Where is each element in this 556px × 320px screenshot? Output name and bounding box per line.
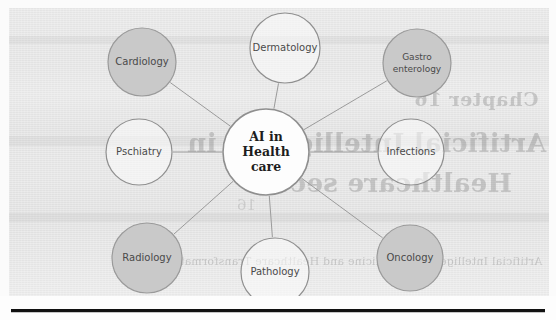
node-cardiology[interactable]: Cardiology bbox=[108, 28, 176, 96]
node-label-radiology: Radiology bbox=[122, 252, 171, 263]
node-gastroenterology[interactable]: Gastroenterology bbox=[383, 29, 451, 97]
edge-ai-in-healthcare-to-dermatology bbox=[274, 83, 279, 108]
node-dermatology[interactable]: Dermatology bbox=[250, 13, 320, 83]
node-label-ai-in-healthcare: Health bbox=[242, 144, 289, 159]
node-ai-in-healthcare[interactable]: AI inHealthcare bbox=[223, 109, 309, 195]
node-label-infections: Infections bbox=[387, 146, 436, 157]
node-pschiatry[interactable]: Pschiatry bbox=[106, 119, 172, 185]
hub-and-spoke-diagram: CardiologyDermatologyGastroenterologyInf… bbox=[0, 0, 556, 320]
node-label-pschiatry: Pschiatry bbox=[116, 146, 162, 157]
node-label-gastroenterology: Gastro bbox=[402, 52, 432, 62]
bottom-rule-shadow bbox=[11, 312, 545, 313]
edge-ai-in-healthcare-to-cardiology bbox=[170, 83, 230, 127]
node-label-pathology: Pathology bbox=[250, 266, 299, 277]
node-label-oncology: Oncology bbox=[387, 252, 434, 263]
node-oncology[interactable]: Oncology bbox=[377, 225, 443, 291]
page-bottom-margin bbox=[0, 296, 556, 320]
scanned-page: Chapter 16 Artificial Intelligence in He… bbox=[0, 0, 556, 320]
edge-ai-in-healthcare-to-oncology bbox=[301, 178, 382, 238]
edge-ai-in-healthcare-to-radiology bbox=[174, 181, 233, 234]
edge-ai-in-healthcare-to-gastroenterology bbox=[304, 81, 387, 130]
node-label-ai-in-healthcare: care bbox=[251, 159, 281, 174]
node-label-cardiology: Cardiology bbox=[115, 56, 169, 67]
node-label-dermatology: Dermatology bbox=[253, 42, 318, 53]
node-infections[interactable]: Infections bbox=[378, 119, 444, 185]
node-label-gastroenterology: enterology bbox=[393, 64, 442, 74]
edge-ai-in-healthcare-to-pathology bbox=[269, 196, 272, 237]
node-label-ai-in-healthcare: AI in bbox=[248, 129, 283, 144]
diagram-nodes: CardiologyDermatologyGastroenterologyInf… bbox=[106, 13, 451, 306]
node-radiology[interactable]: Radiology bbox=[112, 223, 182, 293]
